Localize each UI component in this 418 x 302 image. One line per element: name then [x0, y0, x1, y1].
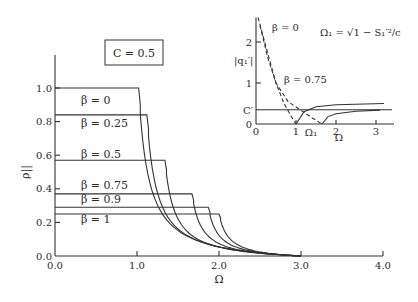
inset-y-tick-label: 1: [246, 78, 252, 89]
inset-x-axis-label: Ω: [335, 132, 343, 143]
inset-omega1-label: Ω₁: [305, 127, 317, 138]
x-axis-label: Ω: [214, 273, 223, 286]
annotation-box-text: C = 0.5: [113, 47, 155, 60]
x-tick-label: 4.0: [375, 260, 391, 271]
series-label: β = 0.5: [81, 148, 121, 161]
y-axis-label: ρ||: [19, 165, 33, 179]
inset-series-curve: [258, 17, 296, 124]
inset-x-tick-label: 1: [293, 126, 299, 137]
inset-x-tick-label: 0: [253, 126, 259, 137]
series-curve: [55, 88, 301, 256]
inset-series-curve: [322, 110, 380, 124]
inset-y-tick-label: 2: [246, 37, 252, 48]
y-tick-label: 0.8: [36, 116, 52, 127]
inset-beta0-label: β = 0: [272, 22, 299, 33]
series-label: β = 0.75: [81, 179, 128, 192]
main-axes: 0.01.02.03.04.00.00.20.40.60.81.0: [36, 55, 391, 271]
inset-y-axis-label: |q₁′|: [234, 55, 253, 67]
inset-x-tick-label: 3: [373, 126, 379, 137]
series-label: β = 0.25: [81, 117, 128, 130]
y-tick-label: 1.0: [36, 83, 52, 94]
x-tick-label: 1.0: [129, 260, 145, 271]
y-tick-label: 0.4: [36, 183, 52, 194]
y-tick-label: 0.2: [36, 217, 52, 228]
y-tick-label: 0.6: [36, 150, 52, 161]
series-curve: [55, 160, 301, 256]
inset-c-prime-label: C′: [243, 105, 254, 116]
main-curves: [55, 88, 301, 256]
inset-formula: Ω₁ = √1 − S₁′²/c: [320, 27, 401, 38]
x-tick-label: 2.0: [211, 260, 227, 271]
series-label: β = 0.9: [81, 193, 121, 206]
x-tick-label: 0.0: [47, 260, 63, 271]
inset-beta075-label: β = 0.75: [284, 74, 327, 85]
main-labels: β = 0β = 0.25β = 0.5β = 0.75β = 0.9β = 1: [81, 94, 128, 226]
inset-y-tick-label: 0: [246, 119, 252, 130]
x-tick-label: 3.0: [293, 260, 309, 271]
series-label: β = 0: [81, 94, 111, 107]
y-tick-label: 0.0: [36, 251, 52, 262]
series-label: β = 1: [81, 213, 111, 226]
chart-figure: 0.01.02.03.04.00.00.20.40.60.81.0 β = 0β…: [0, 0, 418, 302]
